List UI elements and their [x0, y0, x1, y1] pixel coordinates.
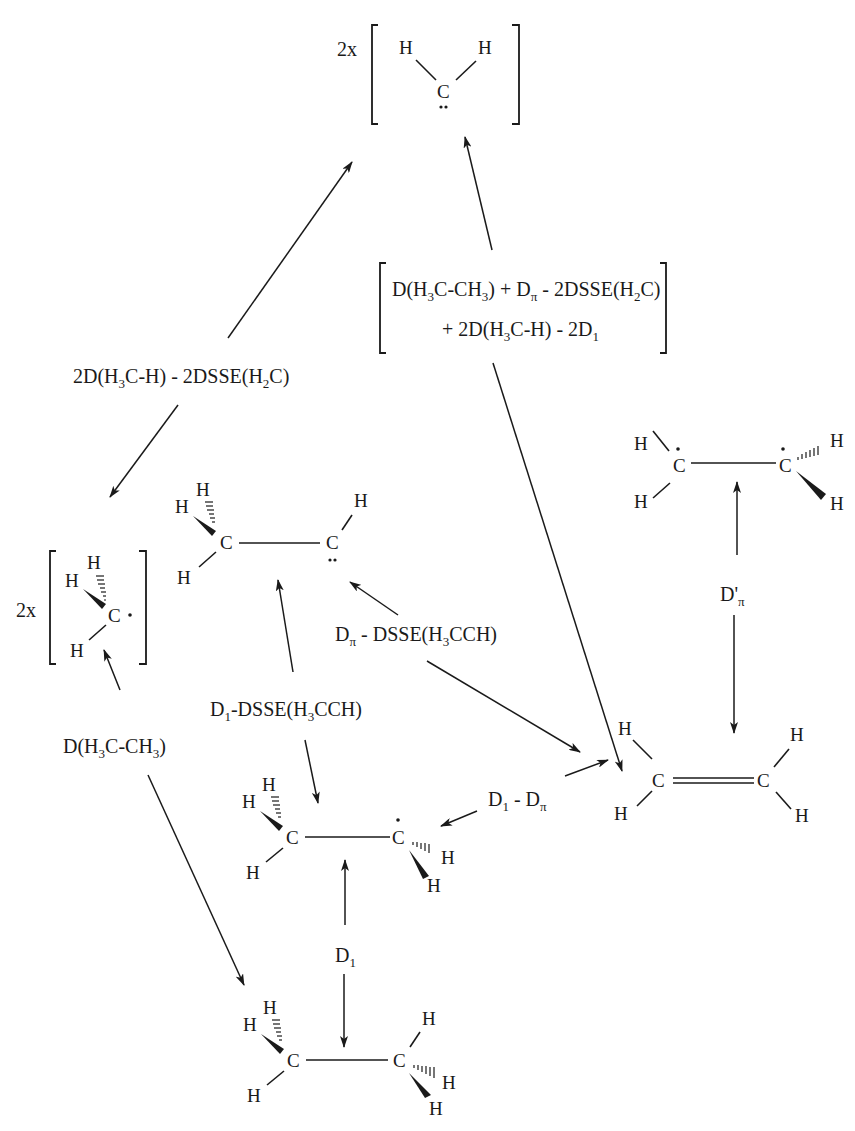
right-bracket [139, 551, 146, 664]
lone-pair-dot [444, 105, 447, 108]
arrow-to-ethylidene-from-ethyl [278, 580, 293, 672]
methylene-species: 2x H H C [337, 25, 519, 124]
h-atom: H [830, 430, 844, 451]
arrow-to-methylene [228, 162, 352, 338]
c-atom: C [757, 770, 770, 791]
arrow-to-ethylidene-from-ethylene [350, 582, 398, 615]
c-atom: C [220, 532, 233, 553]
h-atom: H [399, 37, 413, 58]
h-atom: H [634, 491, 648, 512]
h-atom: H [634, 433, 648, 454]
h-atom: H [87, 552, 101, 573]
ethyl-species: H H C H C H H [242, 774, 455, 896]
ethane-species: H H C H C H H H [243, 997, 456, 1119]
h-atom: H [263, 997, 277, 1018]
radical-dot [781, 447, 785, 451]
h-atom: H [618, 718, 632, 739]
h-atom: H [478, 37, 492, 58]
c-atom: C [437, 81, 450, 102]
arrow-to-ethylene-from-ethylidene [427, 661, 580, 752]
c-atom: C [779, 455, 792, 476]
left-bracket [372, 25, 378, 124]
c-atom: C [673, 455, 686, 476]
c-atom: C [108, 605, 121, 626]
arrow-to-ethylene-from-methylene [493, 363, 622, 771]
arrow-to-methyl-from-ethane [104, 650, 120, 690]
h-atom: H [70, 640, 84, 661]
h-atom: H [354, 490, 368, 511]
label-ethylene-to-twisted: D'π [720, 583, 745, 609]
arrow-to-methylene-from-ethylene [465, 137, 492, 250]
c-atom: C [326, 532, 339, 553]
right-bracket [660, 263, 666, 353]
arrow-to-ethylene-from-ethyl [565, 760, 608, 776]
h-atom: H [795, 805, 809, 826]
h-atom: H [830, 493, 844, 514]
thermochemical-cycle-diagram: 2x H H C 2D(H3C-H) - 2DSSE(H2C) D(H3C-CH… [0, 0, 855, 1131]
multiplier-label: 2x [337, 38, 357, 60]
right-bracket [512, 25, 519, 124]
arrow-to-ethane-from-methyl [148, 775, 244, 985]
h-atom: H [790, 724, 804, 745]
label-ethyl-to-ethylene: D1 - Dπ [488, 788, 547, 814]
arrow-to-ethyl-from-ethylene [441, 811, 477, 826]
h-atom: H [247, 1085, 261, 1106]
h-atom: H [427, 875, 441, 896]
ethylidene-species: H H C H C H [175, 479, 368, 588]
h-atom: H [614, 803, 628, 824]
h-atom: H [243, 1014, 257, 1035]
lone-pair-dot [328, 558, 331, 561]
c-atom: C [286, 827, 299, 848]
h-atom: H [422, 1008, 436, 1029]
label-ethane-to-ethyl: D1 [335, 944, 356, 970]
label-ethyl-to-ethylidene: D1-DSSE(H3CCH) [210, 698, 362, 724]
multiplier-label: 2x [16, 599, 36, 621]
twisted-ethylene-species: H C H C H H [634, 430, 844, 514]
h-atom: H [429, 1098, 443, 1119]
left-bracket [50, 551, 56, 664]
radical-dot [128, 613, 132, 617]
c-atom: C [287, 1050, 300, 1071]
left-bracket [380, 263, 386, 353]
radical-dot [396, 818, 400, 822]
label-ethane-to-methyl: D(H3C-CH3) [63, 735, 166, 761]
h-atom: H [262, 774, 276, 795]
h-atom: H [242, 791, 256, 812]
label-methyl-to-methylene: 2D(H3C-H) - 2DSSE(H2C) [73, 365, 289, 391]
arrow-to-methyl [110, 405, 178, 497]
label-ethylene-to-methylene: D(H3C-CH3) + Dπ - 2DSSE(H2C) + 2D(H3C-H)… [380, 263, 666, 353]
h-atom: H [175, 496, 189, 517]
radical-dot [676, 447, 680, 451]
h-atom: H [65, 570, 79, 591]
methyl-species: 2x H H C H [16, 551, 146, 664]
ethylene-species: H C C H H H [614, 718, 809, 826]
h-atom: H [177, 567, 191, 588]
arrow-to-ethyl-from-ethylidene [305, 740, 318, 803]
c-atom: C [393, 1050, 406, 1071]
c-atom: C [392, 827, 405, 848]
h-atom: H [196, 479, 210, 500]
svg-text:D(H3C-CH3) + Dπ - 2DSSE(H2C): D(H3C-CH3) + Dπ - 2DSSE(H2C) [392, 278, 660, 304]
h-atom: H [442, 1072, 456, 1093]
label-ethylene-to-ethylidene: Dπ - DSSE(H3CCH) [335, 623, 497, 649]
lone-pair-dot [333, 558, 336, 561]
lone-pair-dot [439, 105, 442, 108]
c-atom: C [652, 770, 665, 791]
h-atom: H [441, 847, 455, 868]
svg-text:+ 2D(H3C-H) - 2D1: + 2D(H3C-H) - 2D1 [442, 318, 599, 344]
h-atom: H [246, 862, 260, 883]
